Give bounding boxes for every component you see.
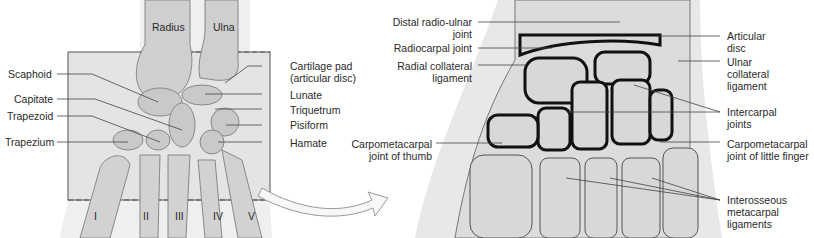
label-carpometacarpal-joint-of-thumb: Carpometacarpal joint of thumb <box>340 138 432 162</box>
label-articular-disc-paren: (articular disc) <box>290 72 356 84</box>
label-capitate: Capitate <box>14 93 53 105</box>
label-intercarpal-joints: Intercarpal joints <box>727 106 777 130</box>
label-trapezoid: Trapezoid <box>7 110 53 122</box>
metacarpal-I: I <box>94 210 97 222</box>
label-ulna: Ulna <box>213 21 235 33</box>
label-interosseous-metacarpal-ligaments: Interosseous metacarpal ligaments <box>727 194 787 230</box>
metacarpal-IV: IV <box>213 210 223 222</box>
label-radial-collateral-ligament: Radial collateral ligament <box>360 60 472 84</box>
label-lunate: Lunate <box>290 89 322 101</box>
label-pisiform: Pisiform <box>290 119 328 131</box>
label-trapezium: Trapezium <box>5 136 54 148</box>
label-radius: Radius <box>152 21 185 33</box>
metacarpal-V: V <box>248 210 255 222</box>
label-articular-disc: Articular disc <box>727 30 766 54</box>
label-distal-radio-ulnar-joint: Distal radio-ulnar joint <box>360 16 472 40</box>
metacarpal-III: III <box>175 210 184 222</box>
label-triquetrum: Triquetrum <box>290 104 340 116</box>
label-scaphoid: Scaphoid <box>8 68 52 80</box>
label-cartilage-pad: Cartilage pad <box>290 60 352 72</box>
label-ulnar-collateral-ligament: Ulnar collateral ligament <box>727 56 769 92</box>
label-carpometacarpal-joint-of-little-finger: Carpometacarpal joint of little finger <box>727 138 809 162</box>
label-hamate: Hamate <box>290 137 327 149</box>
label-radiocarpal-joint: Radiocarpal joint <box>360 42 472 54</box>
metacarpal-II: II <box>143 210 149 222</box>
left-hand-illustration <box>57 0 388 238</box>
